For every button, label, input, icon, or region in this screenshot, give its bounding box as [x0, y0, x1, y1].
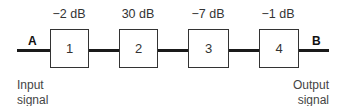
- block-2: 2: [119, 29, 158, 68]
- output-signal-label: Output signal: [293, 78, 329, 106]
- connector-input: [17, 49, 51, 52]
- connector-2-3: [157, 49, 189, 52]
- connector-output: [298, 49, 329, 52]
- point-a-label: A: [28, 34, 37, 48]
- input-signal-label: Input signal: [17, 78, 48, 106]
- block-2-gain: 30 dB: [108, 7, 168, 21]
- output-label-line1: Output: [293, 78, 329, 93]
- block-1-gain: −2 dB: [39, 7, 99, 21]
- input-label-line1: Input: [17, 78, 48, 93]
- block-3-label: 3: [205, 41, 212, 56]
- block-1: 1: [50, 29, 89, 68]
- input-label-line2: signal: [17, 93, 48, 106]
- block-4: 4: [259, 29, 299, 68]
- output-label-line2: signal: [293, 93, 329, 106]
- block-4-label: 4: [275, 41, 282, 56]
- block-2-label: 2: [135, 41, 142, 56]
- block-3: 3: [188, 29, 229, 68]
- connector-1-2: [88, 49, 120, 52]
- point-b-label: B: [312, 34, 321, 48]
- connector-3-4: [228, 49, 260, 52]
- block-3-gain: −7 dB: [178, 7, 238, 21]
- block-1-label: 1: [66, 41, 73, 56]
- block-4-gain: −1 dB: [248, 7, 308, 21]
